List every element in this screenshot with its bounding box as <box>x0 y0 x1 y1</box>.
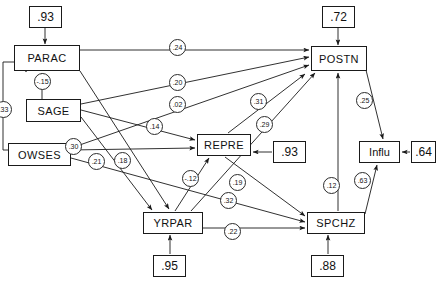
coefficient-owses-postn: .02 <box>169 96 186 113</box>
coefficient-yrpar-repre: -.12 <box>182 170 199 187</box>
coefficient-parac-yrpar: .18 <box>114 152 131 169</box>
edge-owses-repre <box>71 148 195 150</box>
path-diagram-canvas: PARACSAGEOWSESYRPARREPREPOSTNSPCHZInflu.… <box>0 0 436 285</box>
coefficient-sage-parac: -.15 <box>34 73 51 90</box>
node-yrpar[interactable]: YRPAR <box>143 212 203 234</box>
node-owses[interactable]: OWSES <box>8 143 71 166</box>
coefficient-repre-postn: .31 <box>250 93 267 110</box>
coefficient-spchz-postn: .12 <box>323 177 340 194</box>
coefficient-parac-postn: .24 <box>169 39 186 56</box>
node-influ[interactable]: Influ <box>359 141 400 163</box>
coefficient-sage-yrpar: .21 <box>88 153 105 170</box>
residual-parac: .93 <box>29 6 62 28</box>
node-sage[interactable]: SAGE <box>26 99 81 122</box>
residual-postn: .72 <box>322 6 355 28</box>
edge-owses-postn <box>71 65 309 148</box>
node-spchz[interactable]: SPCHZ <box>307 212 365 234</box>
coefficient-sage-postn: .20 <box>169 74 186 91</box>
residual-repre: .93 <box>273 141 306 163</box>
node-postn[interactable]: POSTN <box>311 46 367 71</box>
coefficient-postn-influ: .25 <box>356 92 373 109</box>
coefficient-owses-repre: .30 <box>65 138 82 155</box>
coefficient-owses-spchz: .32 <box>220 192 237 209</box>
node-repre[interactable]: REPRE <box>197 134 251 156</box>
residual-yrpar: .95 <box>153 255 186 277</box>
coefficient-yrpar-spchz: .22 <box>224 223 241 240</box>
coefficient-sage-repre: .14 <box>146 118 163 135</box>
residual-influ: .64 <box>411 141 436 163</box>
coefficient-spchz-influ: .63 <box>354 172 371 189</box>
edge-sage-repre <box>81 110 195 140</box>
residual-spchz: .88 <box>311 255 344 277</box>
coefficient-repre-spchz: .19 <box>229 174 246 191</box>
coefficient-yrpar-postn: .29 <box>256 116 273 133</box>
node-parac[interactable]: PARAC <box>14 45 80 71</box>
